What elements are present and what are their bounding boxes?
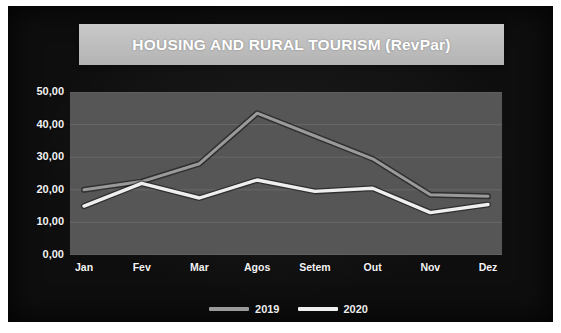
legend-label: 2019 [255,303,279,315]
presentation-slide: HOUSING AND RURAL TOURISM (RevPar) 50,00… [8,6,553,322]
x-axis-tick-label-setem: Setem [299,261,331,273]
x-axis-tick-label-jan: Jan [75,261,93,273]
plot-area [70,92,502,255]
x-axis-tick-label-fev: Fev [133,261,151,273]
x-axis-tick-label-dez: Dez [479,261,498,273]
y-axis-tick-label: 20,00 [36,183,64,195]
y-axis-tick-label: 50,00 [36,85,64,97]
y-axis-labels: 50,0040,0030,0020,0010,000,00 [16,92,64,255]
y-axis-tick-label: 10,00 [36,215,64,227]
x-axis-tick-label-mar: Mar [190,261,209,273]
legend-item-2019[interactable]: 2019 [209,303,279,315]
legend-item-2020[interactable]: 2020 [298,303,368,315]
legend-swatch-2019 [209,307,249,311]
chart-canvas [70,92,502,255]
y-axis-tick-label: 0,00 [43,248,64,260]
x-axis-tick-label-agos: Agos [244,261,270,273]
screenshot-frame: HOUSING AND RURAL TOURISM (RevPar) 50,00… [0,0,561,333]
chart-title: HOUSING AND RURAL TOURISM (RevPar) [132,36,450,54]
y-axis-tick-label: 30,00 [36,150,64,162]
y-axis-tick-label: 40,00 [36,118,64,130]
x-axis-labels: JanFevMarAgosSetemOutNovDez [70,261,502,279]
chart-title-band: HOUSING AND RURAL TOURISM (RevPar) [79,24,504,65]
x-axis-tick-label-nov: Nov [420,261,440,273]
x-axis-tick-label-out: Out [364,261,382,273]
legend-swatch-2020 [298,307,338,311]
chart-legend: 20192020 [8,298,561,320]
legend-label: 2020 [344,303,368,315]
